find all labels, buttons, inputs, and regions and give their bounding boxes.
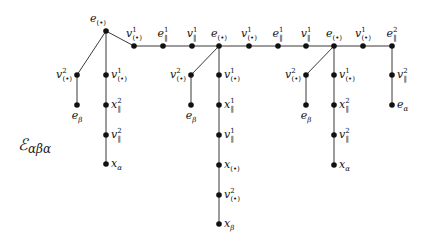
node-label: v2(•)	[170, 67, 186, 83]
node-dot	[360, 43, 366, 49]
edge	[306, 46, 334, 75]
node-dot	[331, 132, 337, 138]
node-label: v2‖	[111, 127, 122, 143]
node-dot	[303, 72, 309, 78]
node-label: e(•)	[90, 12, 106, 27]
node-dot	[103, 161, 109, 167]
node-dot	[160, 43, 166, 49]
node-dot	[303, 43, 309, 49]
node-dot	[74, 72, 80, 78]
node-label: x2‖	[339, 97, 350, 113]
node-dot	[216, 192, 222, 198]
node-label: x1‖	[224, 97, 235, 113]
node-dot	[74, 102, 80, 108]
node-label: e(•)	[211, 27, 227, 42]
node-dot	[189, 43, 195, 49]
node-label: eβ	[186, 109, 197, 124]
node-label: e1‖	[158, 26, 169, 42]
node-label: v2(•)	[285, 67, 301, 83]
node-dot	[389, 102, 395, 108]
node-label: x(•)	[224, 158, 240, 173]
node-label: e2‖	[387, 26, 398, 42]
node-dot	[331, 102, 337, 108]
node-label: v2‖	[397, 67, 408, 83]
node-label: v1‖	[224, 127, 235, 143]
node-dot	[389, 72, 395, 78]
node-dot	[216, 132, 222, 138]
node-label: v1(•)	[241, 26, 257, 42]
node-labels: e(•)v1(•)e1‖v1‖e(•)v1(•)e1‖v1‖e(•)v1(•)e…	[56, 12, 408, 232]
node-label: xα	[111, 157, 122, 172]
node-dot	[246, 43, 252, 49]
edge	[77, 31, 106, 75]
tree-diagram: e(•)v1(•)e1‖v1‖e(•)v1(•)e1‖v1‖e(•)v1(•)e…	[0, 0, 426, 242]
node-dot	[103, 28, 109, 34]
node-dot	[216, 43, 222, 49]
node-label: v2(•)	[56, 67, 72, 83]
node-label: eβ	[301, 109, 312, 124]
node-label: x2‖	[111, 97, 122, 113]
node-label: v2‖	[339, 127, 350, 143]
node-dot	[331, 162, 337, 168]
node-label: v1‖	[187, 26, 198, 42]
node-dot	[216, 162, 222, 168]
node-label: v1(•)	[111, 67, 127, 83]
node-dot	[331, 43, 337, 49]
node-dot	[103, 102, 109, 108]
node-label: v1‖	[301, 26, 312, 42]
node-label: v1(•)	[355, 26, 371, 42]
node-label: eβ	[72, 109, 83, 124]
node-dot	[216, 102, 222, 108]
node-label: xβ	[224, 217, 234, 232]
node-label: v2(•)	[224, 187, 240, 203]
node-dot	[188, 102, 194, 108]
node-dot	[275, 43, 281, 49]
diagram-title: ℰαβα	[18, 135, 51, 156]
node-label: v1(•)	[126, 26, 142, 42]
edge	[191, 46, 219, 75]
node-dot	[389, 43, 395, 49]
node-label: v1(•)	[224, 67, 240, 83]
node-dot	[188, 72, 194, 78]
node-label: xα	[339, 158, 350, 173]
node-dot	[216, 72, 222, 78]
node-label: eα	[397, 98, 409, 113]
node-dot	[103, 132, 109, 138]
node-label: v1(•)	[339, 67, 355, 83]
node-dot	[331, 72, 337, 78]
node-dot	[103, 72, 109, 78]
node-label: e1‖	[273, 26, 284, 42]
node-dot	[303, 102, 309, 108]
node-label: e(•)	[326, 27, 342, 42]
node-dot	[131, 43, 137, 49]
node-dot	[216, 221, 222, 227]
